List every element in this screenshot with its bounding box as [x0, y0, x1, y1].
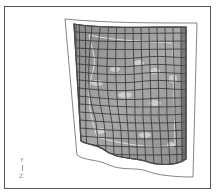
axis-triad: Y Z	[19, 157, 31, 187]
axis-label-z: Z	[19, 173, 23, 179]
axis-label-y: Y	[20, 157, 24, 163]
axis-line	[22, 165, 23, 171]
mesh-render	[5, 7, 212, 190]
viewport-frame[interactable]: Y Z	[4, 6, 211, 189]
